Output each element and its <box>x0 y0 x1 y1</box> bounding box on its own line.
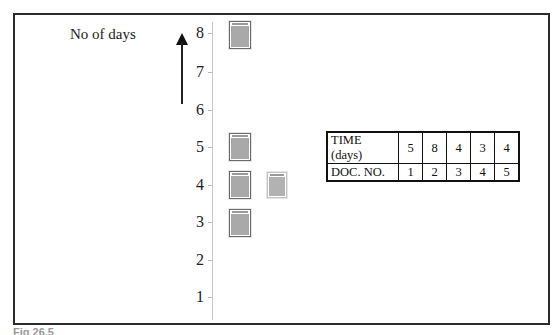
y-tick <box>208 33 212 34</box>
y-tick <box>208 110 212 111</box>
y-tick <box>208 297 212 298</box>
y-tick <box>208 147 212 148</box>
y-tick-label: 3 <box>192 214 204 230</box>
document-icon <box>229 209 251 237</box>
y-axis-line <box>212 22 213 320</box>
figure-caption: Fig 26.5 <box>13 327 54 335</box>
y-axis-label: No of days <box>70 25 136 43</box>
y-tick-label: 1 <box>192 289 204 305</box>
y-tick <box>208 185 212 186</box>
table-row: TIME (days) 5 8 4 3 4 <box>327 132 519 164</box>
table-cell: 2 <box>423 164 447 182</box>
table-cell: 1 <box>399 164 423 182</box>
table-header-time: TIME (days) <box>327 132 399 164</box>
y-tick-label: 2 <box>192 252 204 268</box>
y-tick-label: 4 <box>192 177 204 193</box>
y-tick <box>208 72 212 73</box>
table-cell: 5 <box>495 164 520 182</box>
table-header-docno: DOC. NO. <box>327 164 399 182</box>
document-icon <box>229 133 251 161</box>
document-icon <box>229 171 251 199</box>
table-cell: 3 <box>471 132 495 164</box>
table-cell: 4 <box>447 132 471 164</box>
table-cell: 8 <box>423 132 447 164</box>
table-row: DOC. NO. 1 2 3 4 5 <box>327 164 519 182</box>
y-tick-label: 6 <box>192 102 204 118</box>
document-icon <box>229 21 251 49</box>
y-tick <box>208 260 212 261</box>
table-cell: 3 <box>447 164 471 182</box>
y-tick-label: 7 <box>192 64 204 80</box>
y-tick-label: 5 <box>192 139 204 155</box>
table-cell: 5 <box>399 132 423 164</box>
arrow-shaft <box>181 42 183 104</box>
table-cell: 4 <box>495 132 520 164</box>
document-icon <box>267 172 287 198</box>
y-tick-label: 8 <box>192 25 204 41</box>
table-cell: 4 <box>471 164 495 182</box>
y-tick <box>208 222 212 223</box>
time-doc-table: TIME (days) 5 8 4 3 4 DOC. NO. 1 2 3 4 5 <box>326 131 520 182</box>
